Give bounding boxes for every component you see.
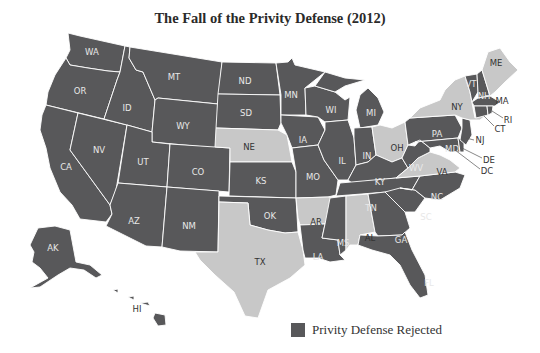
label-AK: AK xyxy=(47,243,59,253)
label-PA: PA xyxy=(432,129,443,139)
label-IA: IA xyxy=(299,135,308,145)
label-LA: LA xyxy=(313,252,324,262)
label-UT: UT xyxy=(137,157,149,167)
label-ND: ND xyxy=(239,76,252,86)
label-WA: WA xyxy=(85,47,99,57)
label-FL: FL xyxy=(424,278,434,288)
label-OH: OH xyxy=(390,143,403,153)
legend-swatch-rejected xyxy=(291,323,305,337)
label-MS: MS xyxy=(337,238,350,248)
label-AR: AR xyxy=(310,217,322,227)
label-DC: DC xyxy=(481,166,494,176)
state-ME xyxy=(482,48,518,96)
label-KS: KS xyxy=(256,176,267,186)
label-KY: KY xyxy=(375,177,386,187)
label-WI: WI xyxy=(326,105,337,115)
label-AL: AL xyxy=(365,233,376,243)
label-NE: NE xyxy=(243,142,255,152)
state-CT xyxy=(474,106,488,118)
label-NJ: NJ xyxy=(476,135,485,145)
label-HI: HI xyxy=(133,304,142,314)
label-SD: SD xyxy=(240,108,252,118)
label-ME: ME xyxy=(490,58,503,68)
label-NH: NH xyxy=(478,91,491,101)
label-CA: CA xyxy=(60,162,72,172)
label-VT: VT xyxy=(465,79,477,89)
label-OR: OR xyxy=(74,86,87,96)
label-NC: NC xyxy=(431,192,443,202)
state-AK xyxy=(30,226,102,288)
legend-label-rejected: Privity Defense Rejected xyxy=(312,322,442,338)
label-AZ: AZ xyxy=(128,216,140,226)
us-map: WA OR CA NV ID MT WY UT AZ CO NM ND SD N… xyxy=(0,0,540,353)
label-MT: MT xyxy=(168,72,181,82)
label-NV: NV xyxy=(93,145,105,155)
state-RI xyxy=(487,106,493,115)
label-NM: NM xyxy=(182,221,196,231)
label-ID: ID xyxy=(122,103,132,113)
label-MA: MA xyxy=(495,96,508,106)
legend: Privity Defense Rejected xyxy=(291,322,442,338)
label-NY: NY xyxy=(451,102,463,112)
label-SC: SC xyxy=(420,212,431,222)
label-VA: VA xyxy=(436,167,447,177)
label-CT: CT xyxy=(494,124,506,134)
label-GA: GA xyxy=(395,235,408,245)
label-IN: IN xyxy=(363,151,372,161)
label-WV: WV xyxy=(409,163,423,173)
label-MN: MN xyxy=(284,90,298,100)
label-CO: CO xyxy=(192,167,205,177)
label-DE: DE xyxy=(483,155,495,165)
label-TN: TN xyxy=(364,203,377,213)
state-NJ xyxy=(460,118,472,145)
label-MO: MO xyxy=(306,172,320,182)
label-WY: WY xyxy=(176,121,190,131)
label-IL: IL xyxy=(338,156,346,166)
state-NM xyxy=(162,187,219,252)
label-MI: MI xyxy=(366,108,376,118)
label-TX: TX xyxy=(253,257,265,267)
label-OK: OK xyxy=(264,211,277,221)
